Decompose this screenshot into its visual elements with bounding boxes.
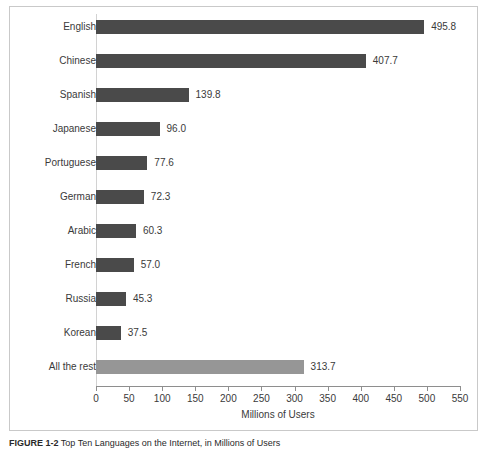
category-label: Spanish	[0, 88, 96, 102]
bar	[96, 258, 134, 272]
x-axis-tick	[361, 386, 362, 391]
bar	[96, 292, 126, 306]
x-axis-tick	[195, 386, 196, 391]
category-label: French	[0, 258, 96, 272]
bar-value-label: 72.3	[151, 190, 170, 204]
category-label: English	[0, 20, 96, 34]
x-axis-tick	[129, 386, 130, 391]
x-axis-tick	[261, 386, 262, 391]
x-axis-tick	[295, 386, 296, 391]
x-axis-tick	[460, 386, 461, 391]
bar-value-label: 45.3	[133, 292, 152, 306]
bar-value-label: 313.7	[311, 360, 336, 374]
category-label: Japanese	[0, 122, 96, 136]
category-label: Chinese	[0, 54, 96, 68]
category-label: Korean	[0, 326, 96, 340]
x-axis-tick	[394, 386, 395, 391]
bar	[96, 88, 189, 102]
category-label: Russia	[0, 292, 96, 306]
bar-value-label: 57.0	[141, 258, 160, 272]
x-axis-tick	[162, 386, 163, 391]
bar	[96, 156, 147, 170]
figure-caption-label: FIGURE 1-2	[9, 438, 59, 448]
bar	[96, 20, 424, 34]
x-axis-title: Millions of Users	[96, 409, 460, 420]
bar-chart: English495.8Chinese407.7Spanish139.8Japa…	[0, 0, 490, 450]
bar-value-label: 407.7	[373, 54, 398, 68]
x-axis-tick-label: 550	[440, 393, 480, 404]
category-label: All the rest	[0, 360, 96, 374]
bar	[96, 54, 366, 68]
bar-value-label: 60.3	[143, 224, 162, 238]
value-axis-line	[96, 386, 460, 387]
category-label: Arabic	[0, 224, 96, 238]
bar	[96, 190, 144, 204]
bar	[96, 360, 304, 374]
x-axis-tick	[427, 386, 428, 391]
bar-value-label: 96.0	[167, 122, 186, 136]
x-axis-tick	[96, 386, 97, 391]
figure-caption-text: Top Ten Languages on the Internet, in Mi…	[61, 438, 280, 448]
bar-value-label: 37.5	[128, 326, 147, 340]
x-axis-tick	[228, 386, 229, 391]
bar	[96, 326, 121, 340]
category-label: Portuguese	[0, 156, 96, 170]
bar-value-label: 77.6	[154, 156, 173, 170]
bar	[96, 122, 160, 136]
figure-caption: FIGURE 1-2 Top Ten Languages on the Inte…	[9, 438, 479, 449]
bar-value-label: 495.8	[431, 20, 456, 34]
bar	[96, 224, 136, 238]
bar-value-label: 139.8	[196, 88, 221, 102]
category-label: German	[0, 190, 96, 204]
x-axis-tick	[328, 386, 329, 391]
